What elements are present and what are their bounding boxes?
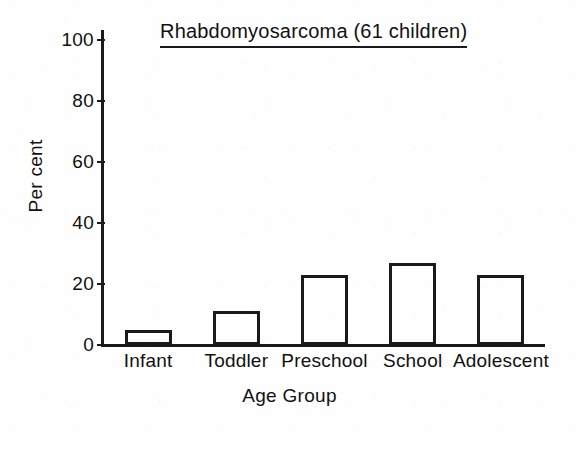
chart-page: Rhabdomyosarcoma (61 children) 020406080… [0, 0, 579, 455]
y-tick-label: 80 [46, 91, 94, 110]
bar-toddler [213, 311, 260, 345]
y-tick-label-wrap: 100 [36, 30, 94, 49]
bars-layer [104, 40, 545, 345]
x-axis-title: Age Group [0, 385, 579, 407]
y-tick-label: 100 [46, 30, 94, 49]
x-tick-label-adolescent: Adolescent [431, 350, 571, 372]
bar-adolescent [477, 275, 524, 345]
bar-chart: Rhabdomyosarcoma (61 children) 020406080… [0, 0, 579, 455]
y-tick-label: 40 [46, 213, 94, 232]
y-tick-label: 20 [46, 274, 94, 293]
bar-infant [125, 330, 172, 345]
y-tick-label: 60 [46, 152, 94, 171]
y-tick-label-wrap: 80 [36, 91, 94, 110]
y-tick-label-wrap: 20 [36, 274, 94, 293]
bar-preschool [301, 275, 348, 345]
bar-school [389, 263, 436, 345]
y-axis-title: Per cent [25, 116, 47, 236]
